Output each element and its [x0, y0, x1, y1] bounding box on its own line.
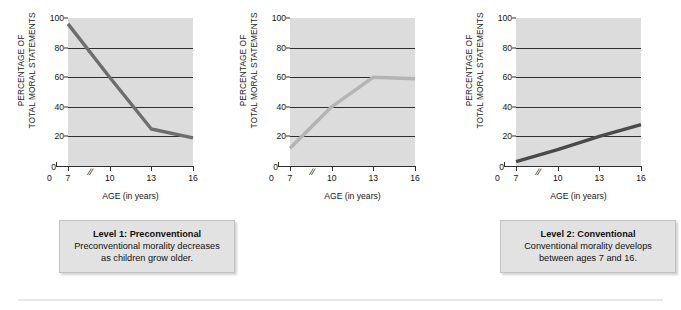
panel-level-1: PERCENTAGE OF TOTAL MORAL STATEMENTS 204…: [0, 0, 227, 300]
series-line-2: [290, 18, 415, 166]
caption-title-1: Level 1: Preconventional: [66, 228, 228, 240]
y-tick-label-20: 20: [502, 131, 512, 141]
y-tick-label-80: 80: [54, 43, 64, 53]
x-tick-label-7: 7: [514, 173, 519, 183]
series-line-1: [68, 18, 193, 166]
y-tick-label-40: 40: [54, 102, 64, 112]
moral-development-figure: PERCENTAGE OF TOTAL MORAL STATEMENTS 204…: [0, 0, 681, 310]
x-tick-mark-16: [641, 166, 642, 171]
plot-area-3: 20406080100 7101316 0 0 //: [516, 18, 641, 166]
x-tick-label-16: 16: [188, 173, 198, 183]
y-tick-label-60: 60: [276, 72, 286, 82]
x-axis-line-2: [278, 166, 415, 167]
axis-break-symbol-1: //: [86, 167, 93, 177]
y-tick-label-100: 100: [498, 13, 512, 23]
chart-level-1: PERCENTAGE OF TOTAL MORAL STATEMENTS 204…: [0, 8, 227, 208]
plot-area-2: 20406080100 7101316 0 0 //: [290, 18, 415, 166]
y-zero-label-2: 0: [273, 162, 278, 172]
y-axis-title-3: PERCENTAGE OF TOTAL MORAL STATEMENTS: [464, 1, 485, 141]
x-axis-title-3: AGE (in years): [516, 191, 641, 201]
x-tick-label-16: 16: [410, 173, 420, 183]
chart-level-2: PERCENTAGE OF TOTAL MORAL STATEMENTS 204…: [222, 8, 449, 208]
y-axis-title-1: PERCENTAGE OF TOTAL MORAL STATEMENTS: [16, 1, 37, 141]
bottom-divider: [18, 299, 663, 301]
y-tick-label-60: 60: [502, 72, 512, 82]
y-tick-label-80: 80: [276, 43, 286, 53]
caption-body-1: Preconventional morality decreases as ch…: [66, 241, 228, 264]
y-tick-label-20: 20: [276, 131, 286, 141]
x-axis-title-1: AGE (in years): [68, 191, 193, 201]
chart-level-3: PERCENTAGE OF TOTAL MORAL STATEMENTS 204…: [448, 8, 675, 208]
x-tick-label-13: 13: [369, 173, 379, 183]
axis-break-symbol-3: //: [534, 167, 541, 177]
y-tick-label-80: 80: [502, 43, 512, 53]
x-tick-label-10: 10: [327, 173, 337, 183]
caption-level-1: Level 1: Preconventional Preconventional…: [59, 220, 235, 273]
x-tick-label-10: 10: [105, 173, 115, 183]
x-axis-line-3: [504, 166, 641, 167]
y-tick-label-40: 40: [276, 102, 286, 112]
x-tick-label-13: 13: [595, 173, 605, 183]
x-tick-label-7: 7: [288, 173, 293, 183]
y-tick-label-60: 60: [54, 72, 64, 82]
x-tick-label-13: 13: [147, 173, 157, 183]
panel-level-2: PERCENTAGE OF TOTAL MORAL STATEMENTS 204…: [222, 0, 449, 300]
y-tick-label-100: 100: [50, 13, 64, 23]
y-tick-label-20: 20: [54, 131, 64, 141]
series-line-3: [516, 18, 641, 166]
x-axis-line-1: [56, 166, 193, 167]
y-axis-title-2: PERCENTAGE OF TOTAL MORAL STATEMENTS: [238, 1, 259, 141]
x-zero-label-3: 0: [495, 173, 500, 183]
x-zero-label-2: 0: [269, 173, 274, 183]
x-tick-label-7: 7: [66, 173, 71, 183]
panel-level-3: PERCENTAGE OF TOTAL MORAL STATEMENTS 204…: [448, 0, 675, 300]
y-tick-label-100: 100: [272, 13, 286, 23]
x-tick-mark-16: [193, 166, 194, 171]
y-zero-label-3: 0: [499, 162, 504, 172]
x-zero-label-1: 0: [47, 173, 52, 183]
axis-break-symbol-2: //: [308, 167, 315, 177]
x-tick-label-16: 16: [636, 173, 646, 183]
plot-area-1: 20406080100 7101316 0 0 //: [68, 18, 193, 166]
x-tick-mark-16: [415, 166, 416, 171]
x-axis-title-2: AGE (in years): [290, 191, 415, 201]
y-zero-label-1: 0: [51, 162, 56, 172]
y-tick-label-40: 40: [502, 102, 512, 112]
x-tick-label-10: 10: [553, 173, 563, 183]
